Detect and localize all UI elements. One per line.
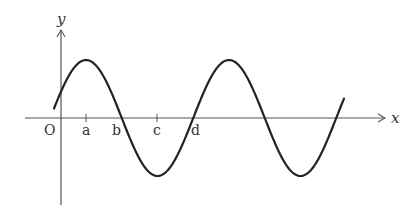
origin-label: O: [44, 122, 55, 138]
sine-wave-diagram: y x O a b c d: [0, 0, 420, 216]
graph-canvas: y x O a b c d: [0, 0, 420, 216]
point-b-label: b: [112, 122, 121, 138]
point-c-label: c: [153, 122, 161, 138]
y-axis-label: y: [56, 10, 66, 28]
point-d-label: d: [191, 122, 200, 138]
point-a-label: a: [82, 122, 90, 138]
x-axis-label: x: [391, 109, 400, 127]
